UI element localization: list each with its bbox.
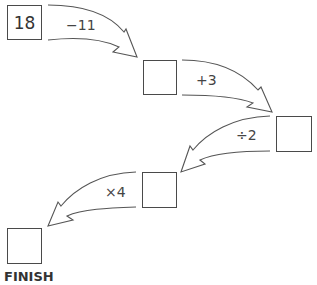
finish-label: FINISH bbox=[4, 269, 54, 284]
answer-box-1[interactable] bbox=[143, 60, 177, 95]
answer-box-2[interactable] bbox=[276, 116, 312, 152]
arrows-layer bbox=[0, 0, 317, 285]
operation-label-4: ×4 bbox=[105, 184, 126, 200]
answer-box-3[interactable] bbox=[142, 172, 177, 208]
arrow-divide-2 bbox=[181, 116, 270, 172]
operation-label-3: ÷2 bbox=[236, 127, 257, 143]
operation-label-1: −11 bbox=[66, 17, 96, 33]
start-box: 18 bbox=[7, 5, 42, 40]
operation-label-2: +3 bbox=[196, 72, 217, 88]
finish-box[interactable] bbox=[7, 228, 42, 264]
start-value: 18 bbox=[14, 13, 36, 33]
